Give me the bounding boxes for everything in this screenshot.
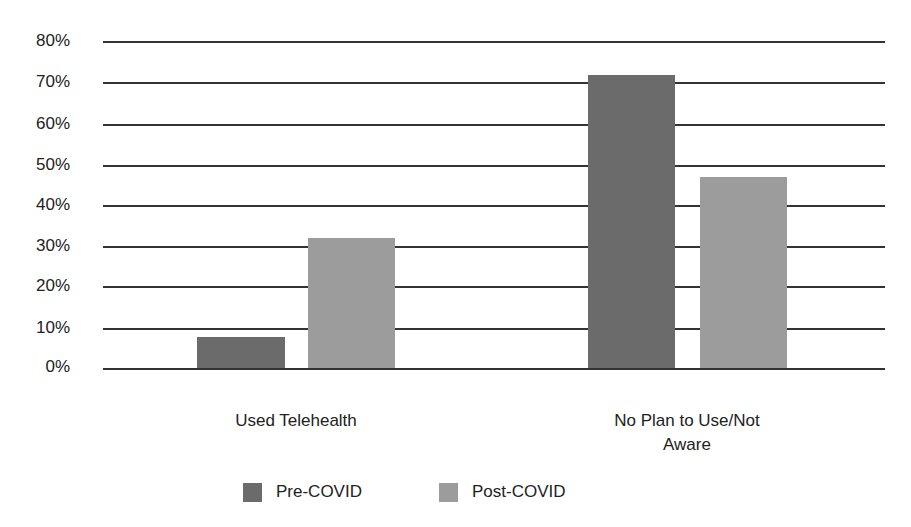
xlabel-no-plan-line2: Aware: [587, 434, 787, 456]
legend-label-pre-covid: Pre-COVID: [276, 482, 362, 502]
legend-post-covid: Post-COVID: [439, 482, 566, 502]
ytick-20: 20%: [0, 276, 70, 296]
ytick-40: 40%: [0, 195, 70, 215]
legend-swatch-pre-covid: [243, 483, 262, 502]
legend-pre-covid: Pre-COVID: [243, 482, 362, 502]
bar-pre-covid-no-plan: [588, 75, 675, 368]
baseline-0: [103, 368, 885, 370]
ytick-80: 80%: [0, 31, 70, 51]
gridline-80: [103, 41, 885, 43]
xlabel-no-plan-line1: No Plan to Use/Not: [587, 410, 787, 432]
legend-swatch-post-covid: [439, 483, 458, 502]
ytick-0: 0%: [0, 357, 70, 377]
ytick-70: 70%: [0, 72, 70, 92]
gridline-70: [103, 82, 885, 84]
bar-post-covid-no-plan: [700, 177, 787, 368]
bar-pre-covid-used-telehealth: [197, 337, 285, 368]
ytick-10: 10%: [0, 318, 70, 338]
gridline-50: [103, 165, 885, 167]
bar-post-covid-used-telehealth: [308, 238, 395, 368]
xlabel-used-telehealth: Used Telehealth: [196, 410, 396, 432]
ytick-30: 30%: [0, 236, 70, 256]
ytick-60: 60%: [0, 114, 70, 134]
ytick-50: 50%: [0, 155, 70, 175]
legend-label-post-covid: Post-COVID: [472, 482, 566, 502]
gridline-60: [103, 124, 885, 126]
